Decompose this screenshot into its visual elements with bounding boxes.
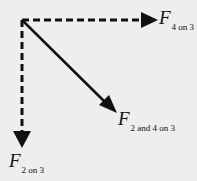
label-f2and4on3-subscript: 2 and 4 on 3 bbox=[131, 123, 176, 133]
label-f2on3: F2 on 3 bbox=[9, 150, 44, 172]
label-f2on3-symbol: F bbox=[9, 150, 21, 171]
vector-f2on3-arrowhead bbox=[13, 131, 31, 148]
label-f2on3-subscript: 2 on 3 bbox=[22, 165, 45, 175]
vector-f4on3-arrowhead bbox=[141, 12, 158, 28]
label-f2and4on3: F2 and 4 on 3 bbox=[118, 108, 175, 130]
label-f4on3-subscript: 4 on 3 bbox=[172, 22, 195, 32]
vector-f2and4on3-line bbox=[22, 20, 106, 103]
label-f4on3: F4 on 3 bbox=[159, 7, 194, 29]
label-f2and4on3-symbol: F bbox=[118, 108, 130, 129]
label-f4on3-symbol: F bbox=[159, 7, 171, 28]
